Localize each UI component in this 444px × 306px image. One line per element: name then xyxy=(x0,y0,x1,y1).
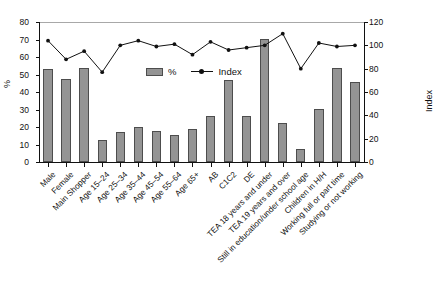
x-tick-label: Still in education/under school age xyxy=(216,170,311,265)
x-tick-mark xyxy=(265,163,266,167)
y-tick-label-left: 50 xyxy=(20,71,29,79)
index-point xyxy=(263,43,267,47)
x-tick-label: TEA 18 years and under xyxy=(205,170,274,239)
x-tick-label: Age 35–44 xyxy=(113,170,147,204)
x-tick-label: Main Shopper xyxy=(51,170,93,212)
index-point xyxy=(64,57,68,61)
index-point xyxy=(317,41,321,45)
x-tick-label: Male xyxy=(38,170,57,189)
y-tick-mark-right xyxy=(365,69,368,70)
y-tick-mark-left xyxy=(36,145,39,146)
x-tick-label: AB xyxy=(206,170,220,184)
x-tick-mark xyxy=(337,163,338,167)
y-tick-label-left: 30 xyxy=(20,106,29,114)
index-point xyxy=(136,39,140,43)
index-point xyxy=(173,42,177,46)
x-tick-mark xyxy=(211,163,212,167)
y-tick-mark-left xyxy=(36,40,39,41)
x-tick-label: Age 65+ xyxy=(174,170,202,198)
y-axis-right-title: Index xyxy=(424,90,434,112)
y-tick-label-left: 80 xyxy=(20,18,29,26)
x-tick-mark xyxy=(48,163,49,167)
x-tick-mark xyxy=(120,163,121,167)
index-point xyxy=(209,40,213,44)
index-line-series xyxy=(39,22,364,162)
y-tick-mark-right xyxy=(365,45,368,46)
y-tick-mark-left xyxy=(36,75,39,76)
x-tick-mark xyxy=(283,163,284,167)
x-tick-mark xyxy=(301,163,302,167)
y-tick-label-right: 20 xyxy=(369,135,378,143)
x-axis-ticks xyxy=(39,163,365,167)
y-tick-label-right: 100 xyxy=(369,41,383,49)
y-tick-mark-right xyxy=(365,92,368,93)
y-tick-label-left: 60 xyxy=(20,53,29,61)
y-tick-label-left: 0 xyxy=(24,158,29,166)
x-tick-label: Age 15–24 xyxy=(77,170,111,204)
y-tick-mark-right xyxy=(365,139,368,140)
index-point xyxy=(46,39,50,43)
y-tick-label-right: 0 xyxy=(369,158,374,166)
y-tick-label-left: 20 xyxy=(20,123,29,131)
x-tick-mark xyxy=(247,163,248,167)
legend-label-percent: % xyxy=(168,66,176,77)
x-tick-label: Working full or part time xyxy=(279,170,346,237)
x-tick-label: Children in H/H xyxy=(283,170,329,216)
index-point xyxy=(82,49,86,53)
x-tick-mark xyxy=(102,163,103,167)
x-tick-label: Age 55–64 xyxy=(149,170,183,204)
x-tick-mark xyxy=(138,163,139,167)
y-tick-label-right: 60 xyxy=(369,88,378,96)
y-tick-mark-left xyxy=(36,57,39,58)
x-tick-mark xyxy=(156,163,157,167)
index-point xyxy=(245,46,249,50)
y-axis-left: 01020304050607080 xyxy=(0,0,35,140)
x-tick-mark xyxy=(84,163,85,167)
y-tick-label-right: 40 xyxy=(369,111,378,119)
x-tick-mark xyxy=(319,163,320,167)
x-tick-label: Age 25–34 xyxy=(95,170,129,204)
y-tick-label-right: 120 xyxy=(369,18,383,26)
x-tick-mark xyxy=(66,163,67,167)
y-tick-mark-right xyxy=(365,115,368,116)
y-tick-label-left: 10 xyxy=(20,141,29,149)
y-tick-mark-right xyxy=(365,162,368,163)
x-tick-label: Female xyxy=(50,170,76,196)
y-tick-mark-left xyxy=(36,162,39,163)
index-point xyxy=(191,53,195,57)
index-point xyxy=(335,45,339,49)
x-tick-label: Studying or not working xyxy=(297,170,364,237)
legend-line-marker-index xyxy=(191,68,213,76)
x-tick-mark xyxy=(355,163,356,167)
y-tick-mark-left xyxy=(36,127,39,128)
y-tick-mark-right xyxy=(365,22,368,23)
chart-container: 01020304050607080 020406080100120 % Inde… xyxy=(0,0,444,306)
y-tick-label-left: 40 xyxy=(20,88,29,96)
chart-legend: % Index xyxy=(146,66,242,77)
x-tick-mark xyxy=(192,163,193,167)
x-tick-mark xyxy=(174,163,175,167)
y-tick-mark-left xyxy=(36,22,39,23)
index-point xyxy=(118,43,122,47)
x-tick-label: DE xyxy=(242,170,256,184)
legend-swatch-percent xyxy=(146,68,163,76)
x-tick-label: TEA 19 years and over xyxy=(227,170,292,235)
index-point xyxy=(281,32,285,36)
index-point xyxy=(353,43,357,47)
index-point xyxy=(154,45,158,49)
y-axis-right: 020406080100120 xyxy=(369,0,409,140)
x-tick-mark xyxy=(229,163,230,167)
index-point xyxy=(100,70,104,74)
y-tick-label-right: 80 xyxy=(369,65,378,73)
y-tick-label-left: 70 xyxy=(20,36,29,44)
x-tick-label: Age 45–54 xyxy=(131,170,165,204)
x-tick-label: C1C2 xyxy=(217,170,238,191)
legend-label-index: Index xyxy=(218,66,241,77)
y-tick-mark-left xyxy=(36,110,39,111)
index-point xyxy=(227,48,231,52)
index-point xyxy=(299,67,303,71)
y-axis-left-title: % xyxy=(2,80,12,88)
y-tick-mark-left xyxy=(36,92,39,93)
